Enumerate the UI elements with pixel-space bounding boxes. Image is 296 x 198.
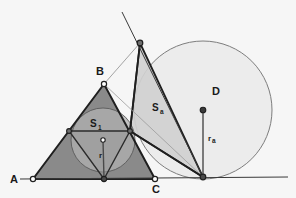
label-vertex-b: B xyxy=(96,65,104,77)
label-region-s2-base: S xyxy=(152,102,159,113)
point-d-excenter xyxy=(200,107,206,113)
geometry-canvas: A B C D S 1 S a r r a xyxy=(0,0,296,198)
point-c xyxy=(152,176,157,181)
label-exradius-sub: a xyxy=(212,137,216,144)
point-incenter xyxy=(101,138,105,142)
point-tangent-base xyxy=(200,174,206,180)
point-apex xyxy=(137,40,143,46)
label-vertex-c: C xyxy=(152,183,160,195)
point-midpoint-ac xyxy=(101,176,106,181)
point-a xyxy=(30,176,35,181)
label-inradius-r: r xyxy=(99,151,102,160)
label-region-s1-base: S xyxy=(90,118,97,129)
label-region-s2-sub: a xyxy=(160,108,164,115)
point-midpoint-ab xyxy=(67,129,72,134)
point-midpoint-bc xyxy=(128,129,133,134)
geometry-diagram-root: A B C D S 1 S a r r a xyxy=(0,0,296,198)
label-exradius-base: r xyxy=(208,134,211,143)
label-center-d: D xyxy=(212,85,220,97)
label-vertex-a: A xyxy=(10,173,18,185)
inradius-segment xyxy=(103,140,104,179)
label-region-s1-sub: 1 xyxy=(98,124,102,131)
point-b xyxy=(101,81,106,86)
